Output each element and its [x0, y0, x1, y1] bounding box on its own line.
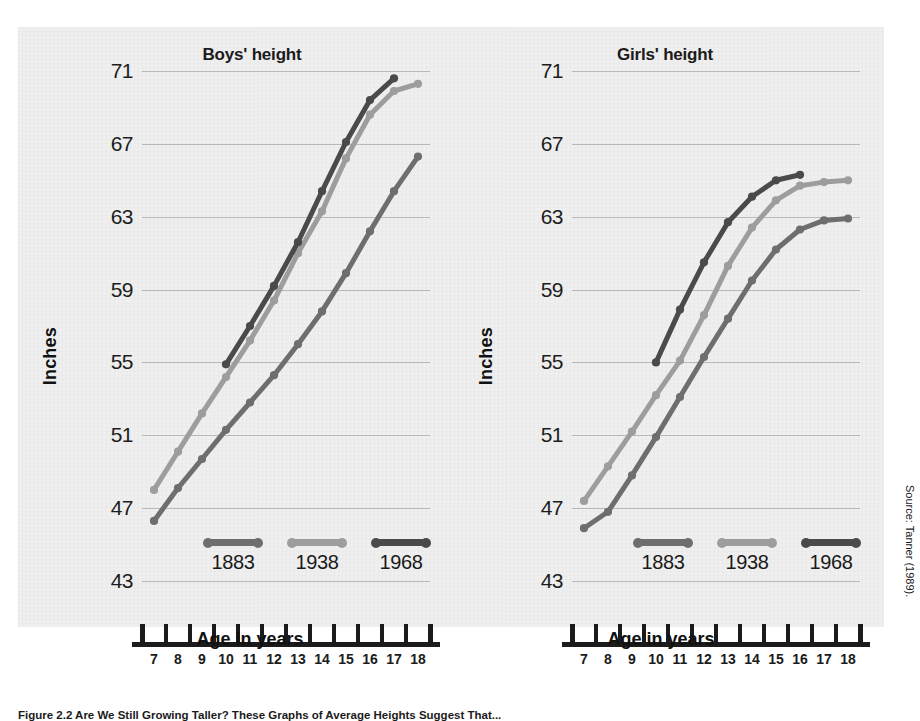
data-point: [246, 322, 254, 330]
x-axis-boys: 789101112131415161718: [142, 624, 430, 625]
y-axis-tick-label: 67: [541, 131, 563, 155]
data-point: [318, 307, 326, 315]
x-axis-tick-label: 11: [673, 651, 688, 667]
y-axis-tick-label: 63: [111, 204, 133, 228]
data-point: [604, 508, 612, 516]
series-line-1938: [154, 84, 418, 490]
y-axis-tick-label: 43: [541, 569, 563, 593]
legend-swatch-cap: [633, 538, 643, 548]
x-axis-title-girls: Age in years: [448, 629, 874, 650]
legend-boys: 188319381968: [204, 539, 444, 587]
data-point: [748, 224, 756, 232]
y-axis-tick-label: 63: [541, 204, 563, 228]
data-point: [222, 426, 230, 434]
data-point: [342, 138, 350, 146]
data-point: [150, 486, 158, 494]
legend-label: 1883: [212, 551, 255, 574]
y-axis-title-boys: Inches: [40, 327, 61, 385]
y-axis-title-girls: Inches: [476, 327, 497, 385]
x-axis-tick-label: 18: [840, 651, 856, 667]
x-axis-tick-label: 7: [580, 651, 588, 667]
x-axis-tick-label: 17: [386, 651, 402, 667]
data-point: [652, 358, 660, 366]
legend-label: 1968: [810, 551, 853, 574]
data-point: [222, 360, 230, 368]
data-point: [700, 311, 708, 319]
x-axis-tick-label: 15: [768, 651, 784, 667]
chart-girls-height: Girls' height Inches 4347515559636771 18…: [458, 27, 884, 627]
y-axis-tick-label: 47: [111, 496, 133, 520]
data-point: [198, 455, 206, 463]
data-point: [270, 282, 278, 290]
y-axis-tick-label: 67: [111, 131, 133, 155]
legend-swatch-cap: [371, 538, 381, 548]
data-point: [844, 176, 852, 184]
data-point: [222, 373, 230, 381]
series-layer-boys: [142, 71, 430, 581]
data-point: [580, 524, 588, 532]
chart-boys-height: Boys' height Inches 4347515559636771 188…: [18, 27, 458, 627]
chart-title-girls: Girls' height: [452, 45, 878, 65]
x-axis-tick-label: 14: [314, 651, 330, 667]
legend-swatch: [718, 539, 776, 546]
x-axis-tick-label: 9: [198, 651, 206, 667]
data-point: [724, 218, 732, 226]
x-axis-tick-label: 15: [338, 651, 354, 667]
data-point: [366, 227, 374, 235]
data-point: [796, 225, 804, 233]
y-axis-tick-label: 55: [111, 350, 133, 374]
x-axis-tick-label: 18: [410, 651, 426, 667]
y-axis-tick-label: 47: [541, 496, 563, 520]
legend-swatch: [204, 539, 262, 546]
y-axis-tick-label: 51: [111, 423, 133, 447]
legend-swatch-cap: [253, 538, 263, 548]
data-point: [580, 497, 588, 505]
data-point: [724, 315, 732, 323]
data-point: [390, 74, 398, 82]
data-point: [676, 306, 684, 314]
data-point: [246, 337, 254, 345]
data-point: [318, 207, 326, 215]
data-point: [174, 484, 182, 492]
x-axis-tick-label: 16: [362, 651, 378, 667]
data-point: [414, 80, 422, 88]
x-axis-tick-label: 10: [218, 651, 234, 667]
legend-swatch-cap: [767, 538, 777, 548]
data-point: [700, 353, 708, 361]
data-point: [246, 398, 254, 406]
y-axis-tick-label: 71: [541, 59, 563, 83]
legend-swatch-cap: [203, 538, 213, 548]
series-line-1883: [154, 157, 418, 521]
data-point: [628, 428, 636, 436]
x-axis-tick-label: 12: [696, 651, 712, 667]
data-point: [294, 340, 302, 348]
data-point: [150, 517, 158, 525]
data-point: [318, 187, 326, 195]
legend-girls: 188319381968: [634, 539, 874, 587]
data-point: [748, 276, 756, 284]
x-axis-tick-label: 11: [243, 651, 258, 667]
data-point: [294, 238, 302, 246]
x-axis-tick-label: 8: [174, 651, 182, 667]
source-note: Source: Tanner (1989).: [904, 485, 916, 597]
data-point: [628, 471, 636, 479]
legend-swatch-cap: [683, 538, 693, 548]
data-point: [796, 171, 804, 179]
chart-title-boys: Boys' height: [32, 45, 472, 65]
y-axis-tick-label: 55: [541, 350, 563, 374]
legend-label: 1938: [726, 551, 769, 574]
x-axis-tick-label: 13: [290, 651, 306, 667]
x-axis-tick-label: 13: [720, 651, 736, 667]
x-axis-tick-label: 17: [816, 651, 832, 667]
legend-swatch-cap: [421, 538, 431, 548]
data-point: [366, 111, 374, 119]
data-point: [700, 258, 708, 266]
legend-swatch: [634, 539, 692, 546]
data-point: [604, 462, 612, 470]
data-point: [652, 391, 660, 399]
series-line-1883: [584, 219, 848, 529]
plot-area-boys: 4347515559636771 188319381968 7891011121…: [142, 71, 430, 581]
y-axis-tick-label: 71: [111, 59, 133, 83]
y-axis-tick-label: 59: [541, 277, 563, 301]
